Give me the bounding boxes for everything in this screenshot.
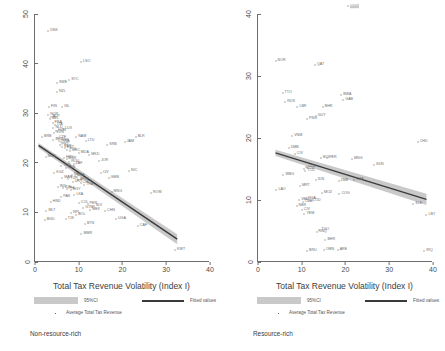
point-marker-icon [89,154,90,155]
panel-caption-right: Resource-rich [253,330,293,337]
point-country-label: ZMB [341,180,349,184]
point-marker-icon [54,133,55,134]
legend-label-average: Average Total Tax Revenue [289,310,345,316]
point-country-label: DZA [356,178,363,182]
point-marker-icon [59,144,60,145]
ci-band-swatch-icon [257,297,301,304]
point-country-label: TTO [285,92,292,96]
point-country-label: IDN [318,178,324,182]
point-marker-icon [305,171,306,172]
x-axis-tick: 40 [429,266,437,273]
point-marker-icon [424,250,425,251]
point-marker-icon [58,140,59,141]
y-axis-tick: 30 [22,110,35,117]
point-marker-icon [42,137,43,138]
point-country-label: FIN [51,105,57,109]
point-country-label: JOR [101,159,108,163]
x-axis-tick: 10 [75,266,83,273]
legend-label-fitted: Fitted values [190,298,216,304]
point-country-label: TCD [307,170,315,174]
point-marker-icon [49,119,50,120]
point-marker-icon [337,249,338,250]
point-marker-icon [48,115,49,116]
point-marker-icon [150,192,151,193]
point-marker-icon [53,128,54,129]
point-marker-icon [62,107,63,108]
point-country-label: BHR [325,105,333,109]
point-country-label: COD [313,199,321,203]
point-country-label: IRQ [426,249,433,253]
point-country-label: BRU [309,249,317,253]
point-marker-icon [62,177,63,178]
point-marker-icon [321,157,322,158]
point-country-label: OMN [326,248,335,252]
point-country-label: JAM [127,140,134,144]
point-marker-icon [301,209,302,210]
point-marker-icon [115,219,116,220]
point-marker-icon [84,184,85,185]
point-marker-icon [323,249,324,250]
point-country-label: MOZ [324,191,332,195]
point-marker-icon [65,167,66,168]
legend-row-average-right: Average Total Tax Revenue [253,307,438,319]
point-country-label: LUX [65,127,72,131]
point-marker-icon [417,141,418,142]
point-country-label: RUS [287,100,295,104]
point-marker-icon [297,107,298,108]
point-marker-icon [53,139,54,140]
point-country-label: ROM [153,191,162,195]
point-marker-icon [69,80,70,81]
legend-left: 95%CI Fitted values Average Total Tax Re… [30,295,215,319]
point-marker-icon [135,137,136,138]
scatter-canvas-left: DNKLSOSWESYCNZLFINISLNORAUTBELFRAITANLDL… [35,14,209,261]
point-marker-icon [307,250,308,251]
point-country-label: BGD [47,219,55,223]
point-country-label: DMB [291,146,299,150]
x-axis-title-right: Total Tax Revenue Volatility (Index I) [257,281,432,291]
point-country-label: WBG [285,173,294,177]
point-country-label: ISL [64,105,70,109]
point-marker-icon [283,175,284,176]
point-marker-icon [285,102,286,103]
point-country-label: CIV [297,152,303,156]
point-country-label: LBR [299,105,306,109]
x-axis-tick: 30 [162,266,170,273]
point-country-label: NOR [278,59,286,63]
point-country-label: MUS [48,155,56,159]
y-axis-tick: 40 [22,60,35,67]
point-country-label: COG [341,192,349,196]
point-country-label: KWT [177,248,185,252]
x-axis-tick: 0 [256,266,260,273]
point-marker-icon [56,83,57,84]
point-marker-icon [108,177,109,178]
point-marker-icon [304,213,305,214]
point-marker-icon [74,194,75,195]
plot-area-left: DNKLSOSWESYCNZLFINISLNORAUTBELFRAITANLDL… [34,14,209,262]
point-marker-icon [70,150,71,151]
legend-label-average: Average Total Tax Revenue [66,310,122,316]
point-country-label: DNK [50,30,58,34]
figure-root: DNKLSOSWESYCNZLFINISLNORAUTBELFRAITANLDL… [0,0,445,351]
point-country-label: SWE [59,82,67,86]
point-country-label: BTN [87,223,94,227]
point-country-label: MLT [48,210,55,214]
panel-caption-left: Non-resource-rich [30,330,81,337]
point-country-label: MRT [302,185,310,189]
point-marker-icon [70,189,71,190]
point-marker-icon [49,107,50,108]
point-country-label: LAO [278,188,285,192]
point-marker-icon [107,144,108,145]
point-country-label: QAT [317,63,324,67]
point-country-label: MNG [114,190,123,194]
ci-band-swatch-icon [34,297,78,304]
fitted-line-swatch-icon [142,300,184,302]
point-marker-icon [76,215,77,216]
point-country-label: UGA [118,218,126,222]
point-marker-icon [373,165,374,166]
point-country-label: GUY [318,114,326,118]
point-marker-icon [84,224,85,225]
point-marker-icon [296,206,297,207]
point-country-label: LSO [83,60,90,64]
x-axis-tick: 20 [342,266,350,273]
point-country-label: NIC [131,169,137,173]
